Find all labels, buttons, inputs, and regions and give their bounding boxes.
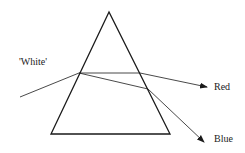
label-blue: Blue	[214, 133, 233, 144]
prism-diagram: 'White' Red Blue	[0, 0, 245, 153]
prism-diagram-graphics	[0, 0, 245, 153]
label-white: 'White'	[19, 56, 47, 67]
blue-ray-internal	[79, 73, 148, 89]
label-red: Red	[214, 81, 230, 92]
red-ray-exit	[140, 73, 207, 87]
